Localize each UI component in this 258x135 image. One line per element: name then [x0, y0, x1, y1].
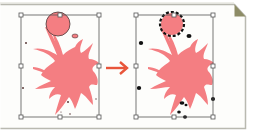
handle-bottom-right[interactable]: [211, 115, 215, 119]
handle-bottom-left[interactable]: [19, 115, 23, 119]
speck-before: [25, 42, 27, 44]
handle-top-left[interactable]: [134, 13, 138, 17]
speck-after: [180, 101, 185, 105]
speck-before: [67, 101, 69, 103]
speck-after: [187, 34, 192, 38]
diagram-canvas: [0, 0, 258, 135]
handle-middle-left[interactable]: [19, 64, 23, 68]
diagram-stage: [0, 0, 258, 135]
handle-top-right[interactable]: [97, 13, 101, 17]
handle-middle-right[interactable]: [211, 64, 215, 68]
handle-top-center[interactable]: [172, 13, 176, 17]
speck-before: [72, 34, 78, 38]
handle-bottom-center[interactable]: [58, 115, 62, 119]
speck-after: [177, 110, 181, 113]
handle-top-right[interactable]: [211, 13, 215, 17]
speck-after: [139, 41, 143, 45]
speck-after: [137, 86, 141, 90]
handle-top-center[interactable]: [58, 13, 62, 17]
speck-after: [185, 104, 188, 106]
handle-bottom-center[interactable]: [172, 115, 176, 119]
handle-top-left[interactable]: [19, 13, 23, 17]
speck-before: [22, 87, 24, 89]
speck-before: [60, 111, 61, 112]
speck-before: [69, 113, 71, 115]
handle-middle-right[interactable]: [97, 64, 101, 68]
speck-before: [95, 98, 96, 99]
handle-bottom-right[interactable]: [97, 115, 101, 119]
frame-border: [1, 5, 246, 129]
handle-middle-left[interactable]: [134, 64, 138, 68]
handle-bottom-left[interactable]: [134, 115, 138, 119]
